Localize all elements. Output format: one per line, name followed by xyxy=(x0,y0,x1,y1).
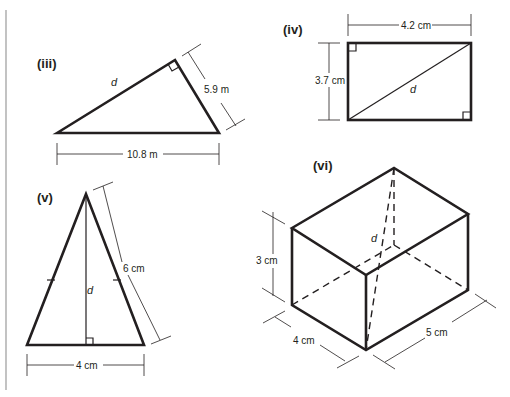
height-label: 3 cm xyxy=(256,255,278,266)
dimension-tick xyxy=(226,119,245,130)
right-angle-marker xyxy=(349,44,356,51)
geometry-diagram: (iii) d 5.9 m 10.8 m (iv) d 4.2 cm xyxy=(0,0,510,397)
dimension-tick xyxy=(182,44,201,56)
dimension-line xyxy=(221,103,236,126)
height-label: 3.7 cm xyxy=(315,75,345,86)
dimension-line xyxy=(452,300,487,322)
figure-iv-label: (iv) xyxy=(283,22,303,37)
figure-v-label: (v) xyxy=(37,190,53,205)
dimension-tick xyxy=(93,182,113,190)
dimension-line xyxy=(320,345,345,361)
dimension-tick xyxy=(262,288,285,302)
length-label: 5 cm xyxy=(426,327,448,338)
figure-vi-label: (vi) xyxy=(313,158,333,173)
diagonal-line xyxy=(348,43,471,120)
dimension-line xyxy=(103,186,122,262)
figure-iii: (iii) d 5.9 m 10.8 m xyxy=(37,44,245,165)
hypotenuse-label: d xyxy=(111,76,118,88)
depth-label: 4 cm xyxy=(293,335,315,346)
diagonal-label: d xyxy=(371,232,378,244)
dimension-tick xyxy=(373,355,395,369)
top-face xyxy=(292,168,468,275)
dimension-tick xyxy=(262,211,285,224)
figure-v: (v) d 6 cm 4 cm xyxy=(27,182,171,376)
dimension-line xyxy=(385,338,425,362)
dimension-tick xyxy=(151,336,171,344)
dimension-line xyxy=(275,317,291,327)
right-angle-marker xyxy=(463,112,470,119)
figure-vi: (vi) d 3 cm 4 cm 5 cm xyxy=(256,158,496,369)
altitude-label: d xyxy=(87,284,94,296)
hidden-edge xyxy=(292,245,394,305)
base-label: 10.8 m xyxy=(127,149,158,160)
side-label: 6 cm xyxy=(123,263,145,274)
diagonal-label: d xyxy=(410,83,417,95)
side-label: 5.9 m xyxy=(204,84,229,95)
base-label: 4 cm xyxy=(76,360,98,371)
triangle-iii xyxy=(57,60,219,133)
dimension-line xyxy=(188,52,205,79)
width-label: 4.2 cm xyxy=(401,20,431,31)
figure-iv: (iv) d 4.2 cm 3.7 cm xyxy=(283,14,471,120)
figure-iii-label: (iii) xyxy=(37,56,57,71)
dimension-line xyxy=(128,275,160,340)
